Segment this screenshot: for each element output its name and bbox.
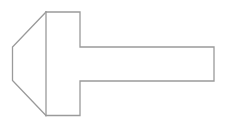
chamfer-edge [13,12,47,116]
head-and-shaft-outline [46,12,214,116]
part-diagram [0,0,227,127]
